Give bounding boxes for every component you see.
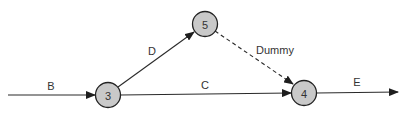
node-3: 3 xyxy=(96,83,121,108)
edge-c-label: C xyxy=(201,79,209,91)
edge-dummy: Dummy xyxy=(215,31,294,84)
node-4-label: 4 xyxy=(301,88,307,100)
node-3-label: 3 xyxy=(105,90,111,102)
edge-e: E xyxy=(316,76,398,93)
edge-dummy-arrow xyxy=(215,31,293,84)
node-4: 4 xyxy=(292,81,317,106)
node-5-label: 5 xyxy=(202,19,208,31)
edge-c-arrow xyxy=(120,93,291,95)
edge-b: B xyxy=(8,80,95,95)
edge-b-label: B xyxy=(47,80,54,92)
edge-d-label: D xyxy=(148,45,156,57)
edge-c: C xyxy=(120,79,291,95)
edge-d-arrow xyxy=(118,32,194,87)
node-5: 5 xyxy=(193,12,218,37)
edge-e-arrow xyxy=(316,92,398,93)
edge-d: D xyxy=(118,32,194,87)
edge-dummy-label: Dummy xyxy=(256,44,294,56)
network-diagram: B D C Dummy E 3 5 4 xyxy=(0,0,408,125)
edge-e-label: E xyxy=(353,76,360,88)
